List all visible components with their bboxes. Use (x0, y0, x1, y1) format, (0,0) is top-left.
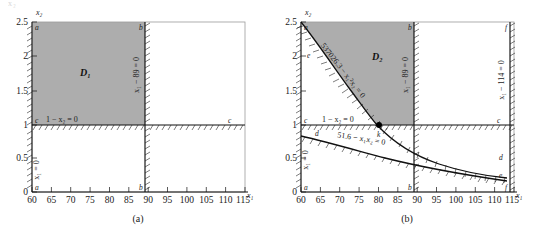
y-tick-label: 1.5 (16, 86, 28, 96)
corner-label-f-top: f (505, 23, 508, 32)
x-tick-label: 70 (66, 195, 76, 205)
y-tick-label: 0.5 (16, 153, 28, 163)
constraint-label-x2-1: 1 − x₂ = 0 (322, 115, 354, 124)
region-label-d2: D₂ (371, 51, 383, 62)
y-tick-label: 1.5 (285, 86, 297, 96)
hatch-x2-1 (302, 125, 512, 130)
y-tick-label: 0 (292, 187, 297, 197)
x-tick-label: 90 (143, 195, 153, 205)
x-tick-label: 85 (124, 195, 134, 205)
x-axis-label: x₁ (246, 191, 254, 200)
corner-label-a-bottom: a (304, 183, 308, 192)
corner-label-a-top: a (35, 23, 39, 32)
panel-caption-b: (b) (401, 213, 413, 225)
x-tick-label: 110 (219, 195, 233, 205)
y-axis-label: x₂ (304, 8, 312, 17)
panel-caption-a: (a) (132, 213, 143, 225)
x-axis-label: x₁ (515, 191, 523, 200)
constraint-label-x1-114: x₁ − 114 = 0 (497, 60, 506, 100)
corner-label-b-bottom: b (139, 183, 143, 192)
corner-label-f-bottom: f (505, 183, 508, 192)
corner-label-b-top: b (139, 23, 143, 32)
corner-label-a-top: a (304, 23, 308, 32)
x-tick-label: 80 (374, 195, 384, 205)
corner-label-c-right: c (497, 116, 501, 125)
x-tick-label: 110 (488, 195, 502, 205)
region-d2 (301, 22, 414, 125)
x-tick-label: 90 (412, 195, 422, 205)
constraint-label-x1-89: x₁ − 89 = 0 (401, 57, 410, 93)
y-tick-label: 1 (23, 120, 28, 130)
x-tick-label: 95 (163, 195, 173, 205)
x-tick-label: 105 (199, 195, 214, 205)
x-tick-label: 85 (393, 195, 403, 205)
constraint-label-x1-0: x₁ = 0 (32, 160, 41, 179)
hatch-x1-89 (145, 23, 150, 190)
corner-label-e-right: e (499, 171, 503, 180)
corner-label-c-right: c (228, 116, 232, 125)
panel-a-plot: 60 65 70 75 80 85 90 95 100 105 110 115 … (0, 0, 269, 233)
x-tick-label: 100 (449, 195, 464, 205)
y-tick-label: 1 (292, 120, 297, 130)
region-label-d1: D₁ (79, 67, 91, 78)
x-tick-label: 95 (432, 195, 442, 205)
panel-b: 60 65 70 75 80 85 90 95 100 105 110 115 … (269, 0, 538, 233)
y-tick-label: 2 (23, 51, 28, 61)
hatch-x2-1 (33, 125, 243, 130)
x-tick-label: 75 (85, 195, 95, 205)
constraint-label-x1-89: x₁ − 89 = 0 (132, 57, 141, 93)
y-tick-label: 0.5 (285, 153, 297, 163)
constraint-label-x2-1: 1 − x₂ = 0 (46, 115, 78, 124)
corner-label-d-left: d (315, 129, 319, 138)
x-tick-label: 65 (47, 195, 57, 205)
y-axis-label: x₂ (35, 8, 43, 17)
x-tick-label: 70 (335, 195, 345, 205)
y-tick-label: 2.5 (285, 17, 297, 27)
y-tick-label: 0 (23, 187, 28, 197)
panel-a: 60 65 70 75 80 85 90 95 100 105 110 115 … (0, 0, 269, 233)
y-tick-label: 2 (292, 51, 297, 61)
corner-label-e-left: e (307, 51, 311, 60)
corner-label-d-right: d (499, 153, 503, 162)
corner-label-c-left: c (304, 116, 308, 125)
corner-label-b-top: b (408, 23, 412, 32)
x-tick-label: 100 (180, 195, 195, 205)
x-tick-label: 60 (27, 195, 37, 205)
x-tick-label: 60 (296, 195, 306, 205)
x-tick-label: 65 (316, 195, 326, 205)
y-tick-label: 2.5 (16, 17, 28, 27)
x-tick-label: 75 (354, 195, 364, 205)
corner-label-b-bottom: b (408, 183, 412, 192)
constraint-label-x1-0: x₁ = 0 (301, 150, 310, 169)
panel-b-plot: 60 65 70 75 80 85 90 95 100 105 110 115 … (269, 0, 538, 233)
optimum-point-k (376, 122, 382, 128)
x-tick-label: 80 (105, 195, 115, 205)
x-tick-label: 105 (468, 195, 483, 205)
corner-label-a-bottom: a (35, 183, 39, 192)
curve-51-6 (301, 136, 507, 181)
